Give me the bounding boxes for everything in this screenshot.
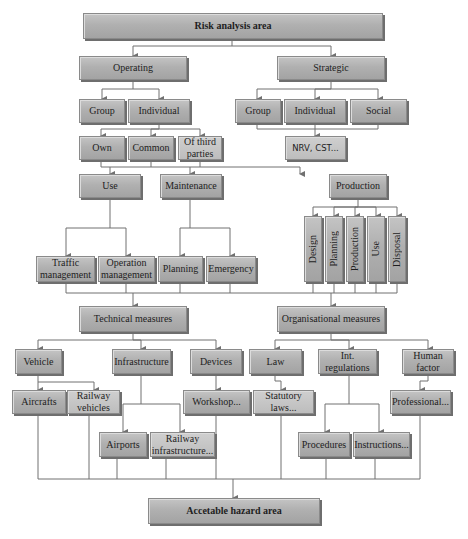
infrastructure-label: Infrastructure (114, 356, 168, 368)
strategic-box: Strategic (277, 56, 385, 80)
railway-infrastructure-label: Railway infrastructure... (151, 433, 214, 457)
human-factor-label: Human factor (403, 350, 453, 374)
procedures-label: Procedures (302, 439, 346, 451)
common-label: Common (132, 142, 169, 154)
risk-analysis-area-box: Risk analysis area (83, 13, 383, 39)
aircrafts-label: Aircrafts (21, 396, 57, 408)
third-parties-label: Of third parties (179, 136, 221, 160)
railway-vehicles-label: Railway vehicles (68, 390, 119, 414)
infrastructure-box: Infrastructure (112, 349, 171, 374)
own-box: Own (79, 136, 125, 160)
maintenance-box: Maintenance (160, 174, 222, 198)
use-label: Use (102, 180, 118, 192)
risk-analysis-diagram: Risk analysis area Operating Strategic G… (0, 0, 468, 539)
operating-individual-box: Individual (128, 99, 190, 123)
maintenance-planning-box: Planning (158, 256, 203, 282)
strategic-social-label: Social (366, 105, 391, 117)
phase-use-box: Use (367, 216, 385, 282)
operating-group-label: Group (89, 105, 115, 117)
devices-box: Devices (190, 349, 242, 374)
operation-management-box: Operation management (98, 256, 155, 282)
phase-planning-box: Planning (325, 216, 343, 282)
professional-box: Professional... (390, 390, 451, 414)
organisational-measures-box: Organisational measures (277, 306, 385, 332)
traffic-management-box: Traffic management (36, 256, 95, 282)
technical-measures-label: Technical measures (94, 313, 172, 325)
professional-label: Professional... (392, 396, 449, 408)
statutory-laws-label: Statutory laws... (254, 390, 313, 414)
procedures-box: Procedures (298, 432, 350, 457)
phase-production-box: Production (346, 216, 364, 282)
airports-box: Airports (99, 432, 147, 457)
workshop-box: Workshop... (183, 390, 250, 414)
maintenance-planning-label: Planning (163, 263, 199, 275)
int-regulations-label: Int. regulations (319, 350, 376, 374)
traffic-management-label: Traffic management (37, 257, 94, 281)
common-box: Common (128, 136, 174, 160)
instructions-box: Instructions... (353, 432, 410, 457)
devices-label: Devices (200, 356, 232, 368)
vehicle-label: Vehicle (24, 356, 54, 368)
phase-design-box: Design (304, 216, 322, 282)
operating-label: Operating (113, 62, 153, 74)
strategic-individual-label: Individual (294, 105, 335, 117)
vehicle-box: Vehicle (15, 349, 62, 374)
acceptable-hazard-area-box: Accetable hazard area (148, 498, 320, 524)
own-label: Own (92, 142, 111, 154)
int-regulations-box: Int. regulations (318, 349, 377, 374)
phase-production-label: Production (349, 227, 361, 271)
production-label: Production (336, 180, 380, 192)
railway-vehicles-box: Railway vehicles (67, 390, 120, 414)
phase-disposal-box: Disposal (388, 216, 406, 282)
strategic-label: Strategic (313, 62, 349, 74)
railway-infrastructure-box: Railway infrastructure... (150, 432, 215, 457)
technical-measures-box: Technical measures (79, 306, 187, 332)
human-factor-box: Human factor (402, 349, 454, 374)
risk-analysis-area-label: Risk analysis area (194, 20, 271, 32)
workshop-label: Workshop... (192, 396, 240, 408)
phase-disposal-label: Disposal (391, 232, 403, 267)
airports-label: Airports (106, 439, 139, 451)
acceptable-hazard-area-label: Accetable hazard area (186, 505, 281, 517)
statutory-laws-box: Statutory laws... (253, 390, 314, 414)
third-parties-box: Of third parties (178, 136, 222, 160)
operating-box: Operating (79, 56, 187, 80)
operating-individual-label: Individual (138, 105, 179, 117)
aircrafts-box: Aircrafts (12, 390, 66, 414)
emergency-box: Emergency (206, 256, 256, 282)
use-box: Use (79, 174, 141, 198)
emergency-label: Emergency (208, 263, 253, 275)
production-box: Production (329, 174, 387, 198)
law-box: Law (249, 349, 302, 374)
phase-planning-label: Planning (328, 231, 340, 267)
strategic-group-box: Group (235, 99, 281, 123)
organisational-measures-label: Organisational measures (282, 313, 380, 325)
phase-design-label: Design (307, 235, 319, 263)
instructions-label: Instructions... (354, 439, 409, 451)
law-label: Law (267, 356, 285, 368)
maintenance-label: Maintenance (165, 180, 217, 192)
strategic-social-box: Social (350, 99, 407, 123)
operating-group-box: Group (79, 99, 125, 123)
operation-management-label: Operation management (99, 257, 154, 281)
strategic-individual-box: Individual (284, 99, 346, 123)
strategic-group-label: Group (245, 105, 271, 117)
nrv-cst-label: NRV, CST... (292, 142, 339, 154)
nrv-cst-box: NRV, CST... (285, 136, 346, 160)
phase-use-label: Use (370, 241, 382, 257)
